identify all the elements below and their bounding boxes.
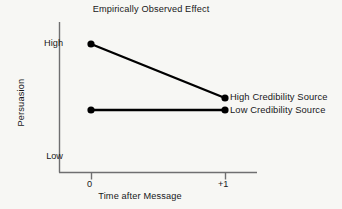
x-axis-tick-label-0: 0 — [87, 180, 92, 189]
x-axis-title: Time after Message — [85, 192, 195, 201]
y-axis-tick-label-low: Low — [46, 152, 63, 161]
data-point-high-credibility-start — [87, 40, 94, 47]
data-point-low-credibility-start — [87, 106, 94, 113]
chart-container: Empirically Observed Effect High Low Per… — [0, 0, 342, 209]
y-axis-title: Persuasion — [17, 63, 26, 143]
data-point-high-credibility-end — [221, 94, 228, 101]
series-line-high-credibility — [91, 44, 225, 98]
x-axis-tick-label-plus-1: +1 — [218, 180, 228, 189]
y-axis-tick-label-high: High — [44, 39, 63, 48]
series-label-high-credibility-source: High Credibility Source — [230, 92, 328, 101]
series-label-low-credibility-source: Low Credibility Source — [230, 105, 325, 114]
chart-title: Empirically Observed Effect — [0, 5, 302, 14]
data-point-low-credibility-end — [221, 106, 228, 113]
